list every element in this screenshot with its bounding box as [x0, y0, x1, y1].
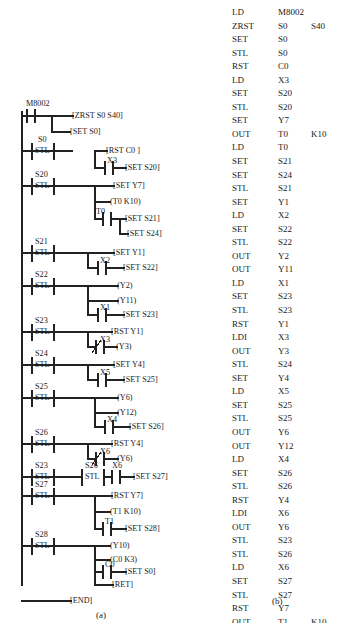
instruction-opcode: SET	[232, 223, 248, 237]
stl-block-s24: STL	[35, 361, 50, 369]
instruction-operand-1: S23	[278, 534, 292, 548]
instruction-opcode: OUT	[232, 616, 251, 623]
instruction-opcode: STL	[232, 236, 248, 250]
instruction-row: LDIX3	[232, 331, 344, 345]
instruction-opcode: STL	[232, 534, 248, 548]
output-set-s26: [SET S26]	[129, 423, 164, 431]
state-label-s24: S24	[35, 350, 48, 358]
output-ret: [RET]	[112, 581, 133, 589]
instruction-operand-1: S23	[278, 290, 292, 304]
instruction-row: SETS22	[232, 223, 344, 237]
instruction-opcode: OUT	[232, 426, 251, 440]
instruction-opcode: OUT	[232, 128, 251, 142]
state-label-s20: S20	[35, 171, 48, 179]
contact-label-x3-a: X3	[107, 157, 117, 165]
output-c0-k3: (C0 K3)	[110, 556, 137, 564]
instruction-operand-1: Y1	[278, 196, 289, 210]
instruction-operand-1: S0	[278, 47, 288, 61]
contact-label-x5: X5	[100, 369, 110, 377]
instruction-list: LDM8002ZRSTS0S40SETS0STLS0RSTC0LDX3SETS2…	[232, 6, 344, 623]
instruction-opcode: LDI	[232, 507, 247, 521]
instruction-row: SETS20	[232, 87, 344, 101]
output-set-s21: [SET S21]	[125, 215, 160, 223]
instruction-operand-1: Y12	[278, 440, 294, 454]
instruction-row: OUTY11	[232, 263, 344, 277]
output-y2: (Y2)	[117, 282, 132, 290]
instruction-row: OUTY6	[232, 521, 344, 535]
instruction-operand-1: Y3	[278, 345, 289, 359]
output-y10: (Y10)	[110, 542, 130, 550]
instruction-opcode: OUT	[232, 250, 251, 264]
instruction-opcode: OUT	[232, 263, 251, 277]
instruction-row: STLS26	[232, 480, 344, 494]
instruction-opcode: OUT	[232, 345, 251, 359]
output-set-y1: [SET Y1]	[113, 249, 145, 257]
instruction-row: STLS21	[232, 182, 344, 196]
instruction-operand-1: S25	[278, 412, 292, 426]
instruction-operand-1: S22	[278, 223, 292, 237]
instruction-row: SETY4	[232, 372, 344, 386]
instruction-row: STLS27	[232, 589, 344, 603]
output-set-s28: [SET S28]	[125, 525, 160, 533]
instruction-opcode: STL	[232, 358, 248, 372]
instruction-row: STLS24	[232, 358, 344, 372]
instruction-row: LDIX6	[232, 507, 344, 521]
output-rst-y7: [RST Y7]	[111, 492, 143, 500]
instruction-opcode: LD	[232, 561, 244, 575]
instruction-operand-1: Y7	[278, 114, 289, 128]
state-label-s21: S21	[35, 238, 48, 246]
contact-label-m8002: M8002	[26, 100, 50, 108]
instruction-opcode: LD	[232, 209, 244, 223]
instruction-opcode: SET	[232, 169, 248, 183]
instruction-row: ZRSTS0S40	[232, 20, 344, 34]
output-y12: (Y12)	[117, 409, 137, 417]
stl-block-s23: STL	[35, 328, 50, 336]
instruction-row: SETS27	[232, 575, 344, 589]
output-end: [END]	[70, 597, 92, 605]
output-set-s25: [SET S25]	[123, 376, 158, 384]
instruction-operand-1: X3	[278, 74, 289, 88]
instruction-operand-2: S40	[311, 20, 325, 34]
output-y3: (Y3)	[116, 343, 131, 351]
instruction-operand-1: Y4	[278, 372, 289, 386]
stl-block-s28: STL	[35, 542, 50, 550]
instruction-opcode: STL	[232, 480, 248, 494]
state-label-s0: S0	[38, 136, 47, 144]
stl-block-s27: STL	[35, 492, 50, 500]
instruction-operand-1: S24	[278, 169, 292, 183]
instruction-operand-2: K10	[311, 616, 327, 623]
instruction-opcode: SET	[232, 399, 248, 413]
contact-label-x2: X2	[100, 257, 110, 265]
instruction-opcode: STL	[232, 548, 248, 562]
instruction-opcode: SET	[232, 372, 248, 386]
instruction-opcode: STL	[232, 589, 248, 603]
instruction-row: RSTY7	[232, 602, 344, 616]
instruction-operand-1: S23	[278, 304, 292, 318]
output-set-y4: [SET Y4]	[113, 361, 145, 369]
instruction-row: STLS0	[232, 47, 344, 61]
output-set-s23: [SET S23]	[123, 311, 158, 319]
contact-label-x6-a: X6	[100, 448, 110, 456]
instruction-opcode: OUT	[232, 440, 251, 454]
instruction-opcode: RST	[232, 602, 249, 616]
instruction-row: OUTY3	[232, 345, 344, 359]
instruction-opcode: LD	[232, 74, 244, 88]
instruction-operand-1: X6	[278, 561, 289, 575]
instruction-operand-1: S22	[278, 236, 292, 250]
instruction-operand-1: S20	[278, 87, 292, 101]
output-zrst-s0-s40: [ZRST S0 S40]	[72, 112, 123, 120]
instruction-operand-1: X4	[278, 453, 289, 467]
stl-block-s26-2: STL	[85, 473, 100, 481]
instruction-row: RSTY4	[232, 494, 344, 508]
stl-block-s22: STL	[35, 282, 50, 290]
instruction-opcode: STL	[232, 101, 248, 115]
instruction-operand-1: S0	[278, 20, 288, 34]
instruction-operand-1: S26	[278, 467, 292, 481]
instruction-opcode: RST	[232, 318, 249, 332]
instruction-opcode: RST	[232, 60, 249, 74]
output-t0-k10: (T0 K10)	[110, 198, 141, 206]
instruction-operand-1: S26	[278, 548, 292, 562]
instruction-row: STLS26	[232, 548, 344, 562]
instruction-operand-1: T0	[278, 128, 288, 142]
instruction-operand-1: S0	[278, 33, 288, 47]
